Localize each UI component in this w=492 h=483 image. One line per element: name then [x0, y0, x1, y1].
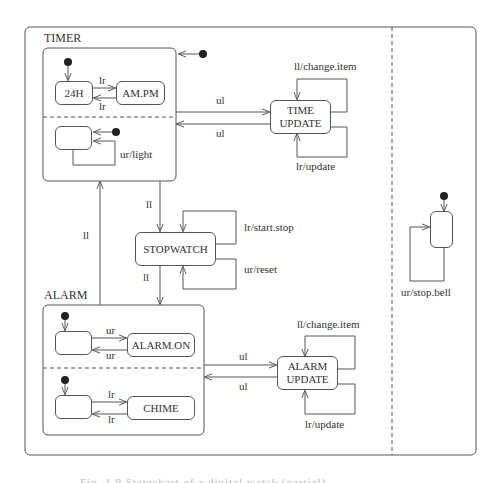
state-24h: 24H [55, 81, 93, 105]
state-light-idle [55, 126, 92, 150]
label-stopwatch-to-alarm: ll [143, 272, 149, 283]
state-time-update-line2: UPDATE [279, 117, 321, 130]
label-alarm-on-to-idle: ur [106, 350, 115, 361]
label-ampm-to-h24: lr [99, 101, 106, 112]
figure-caption: Fig. 1.9 Statechart of a digital watch (… [80, 476, 410, 483]
initial-dot [61, 312, 69, 320]
label-alarm-update-change-item: ll/change.item [297, 319, 360, 330]
initial-dot [440, 192, 448, 200]
state-ampm: AM.PM [116, 81, 165, 105]
initial-dot [112, 128, 120, 136]
label-time-update-to-timer: ul [216, 128, 225, 139]
label-chime-to-idle: lr [108, 414, 115, 425]
initial-dot [64, 58, 72, 66]
label-idle-to-chime: lr [108, 389, 115, 400]
label-idle-to-alarm-on: ur [106, 325, 115, 336]
state-stopwatch: STOPWATCH [135, 232, 216, 266]
label-light-loop: ur/light [120, 149, 152, 160]
label-h24-to-ampm: lr [99, 75, 106, 86]
label-stopwatch-start-stop: lr/start.stop [244, 222, 294, 233]
label-timer-to-stopwatch: ll [146, 199, 152, 210]
initial-dot [61, 376, 69, 384]
initial-dot [199, 50, 207, 58]
state-time-update-line1: TIME [287, 104, 314, 117]
label-alarm-to-alarm-update: ul [239, 351, 248, 362]
label-stopwatch-reset: ur/reset [244, 264, 277, 275]
label-timer-to-time-update: ul [216, 95, 225, 106]
state-alarm-update-line1: ALARM [288, 360, 328, 373]
state-chime-idle [55, 395, 92, 419]
state-alarm-update: ALARM UPDATE [277, 356, 338, 390]
state-alarm-on: ALARM.ON [127, 333, 195, 357]
alarm-label: ALARM [44, 289, 87, 301]
state-alarm-update-line2: UPDATE [286, 373, 328, 386]
label-alarm-update-update: lr/update [305, 419, 344, 430]
state-time-update: TIME UPDATE [270, 100, 331, 134]
state-alarm-idle [55, 331, 92, 355]
state-chime: CHIME [127, 396, 195, 420]
timer-box [43, 48, 176, 181]
label-alarm-update-to-alarm: ul [239, 381, 248, 392]
label-time-update-change-item: ll/change.item [294, 61, 357, 72]
label-alarm-to-timer: ll [83, 230, 89, 241]
label-bell-loop: ur/stop.bell [401, 287, 451, 298]
state-bell [430, 211, 453, 248]
label-time-update-update: lr/update [296, 161, 335, 172]
timer-label: TIMER [44, 32, 81, 44]
